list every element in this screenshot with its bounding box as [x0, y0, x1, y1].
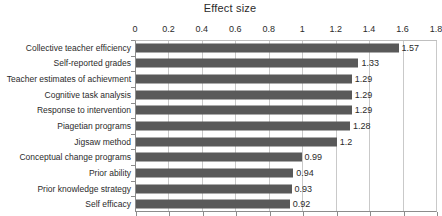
x-tick-mark [303, 212, 304, 216]
category-label: Teacher estimates of achievment [0, 74, 131, 84]
bar-value-label: 1.29 [355, 74, 373, 84]
bar [136, 59, 358, 68]
category-label: Cognitive task analysis [0, 90, 131, 100]
x-tick-label: 1.2 [329, 24, 342, 34]
y-tick-mark [131, 181, 135, 182]
category-label: Jigsaw method [0, 137, 131, 147]
bar-value-label: 0.93 [295, 184, 313, 194]
bar [136, 106, 352, 115]
y-tick-mark [131, 71, 135, 72]
x-tick-mark [203, 212, 204, 216]
bars-layer: 1.571.331.291.291.291.281.20.990.940.930… [136, 40, 437, 212]
x-axis-tick-labels: 00.20.40.60.811.21.41.61.8 [135, 24, 437, 38]
x-tick-mark [136, 212, 137, 216]
bar [136, 90, 352, 99]
bar [136, 43, 399, 52]
y-tick-mark [131, 40, 135, 41]
x-tick-mark [404, 212, 405, 216]
bar-value-label: 0.99 [305, 152, 323, 162]
category-label: Self-reported grades [0, 58, 131, 68]
category-label: Self efficacy [0, 199, 131, 209]
y-tick-mark [131, 56, 135, 57]
chart-title: Effect size [0, 2, 442, 14]
x-tick-mark [236, 212, 237, 216]
category-label: Piagetian programs [0, 121, 131, 131]
bar-value-label: 1.29 [355, 105, 373, 115]
category-label: Prior knowledge strategy [0, 184, 131, 194]
chart-title-text: Effect size [204, 2, 257, 14]
bar-value-label: 1.28 [353, 121, 371, 131]
x-tick-mark [437, 212, 438, 216]
x-tick-label: 1.4 [363, 24, 376, 34]
y-tick-mark [131, 165, 135, 166]
bar [136, 200, 290, 209]
x-tick-mark [270, 212, 271, 216]
category-label: Prior ability [0, 168, 131, 178]
bar [136, 137, 337, 146]
x-tick-label: 1 [300, 24, 305, 34]
bar [136, 184, 292, 193]
x-tick-label: 0.2 [162, 24, 175, 34]
effect-size-bar-chart: Effect size 00.20.40.60.811.21.41.61.8 C… [0, 0, 442, 216]
x-tick-label: 0.6 [229, 24, 242, 34]
y-tick-mark [131, 149, 135, 150]
bar [136, 122, 350, 131]
x-tick-label: 1.6 [396, 24, 409, 34]
x-tick-label: 0 [132, 24, 137, 34]
x-tick-mark [169, 212, 170, 216]
y-tick-mark [131, 196, 135, 197]
y-tick-mark [131, 118, 135, 119]
category-label: Response to intervention [0, 105, 131, 115]
bar [136, 153, 302, 162]
x-tick-mark [337, 212, 338, 216]
x-tick-label: 0.4 [196, 24, 209, 34]
bar-value-label: 0.94 [296, 168, 314, 178]
bar [136, 75, 352, 84]
bar-value-label: 1.57 [402, 43, 420, 53]
x-tick-label: 0.8 [263, 24, 276, 34]
bar-value-label: 1.29 [355, 90, 373, 100]
bar [136, 168, 293, 177]
y-axis-category-labels: Collective teacher efficiencySelf-report… [0, 40, 131, 212]
x-tick-mark [370, 212, 371, 216]
y-tick-mark [131, 87, 135, 88]
x-tick-label: 1.8 [430, 24, 442, 34]
category-label: Conceptual change programs [0, 152, 131, 162]
bar-value-label: 0.92 [293, 199, 311, 209]
y-tick-mark [131, 103, 135, 104]
y-tick-mark [131, 134, 135, 135]
bar-value-label: 1.2 [340, 137, 353, 147]
category-label: Collective teacher efficiency [0, 43, 131, 53]
bar-value-label: 1.33 [361, 58, 379, 68]
